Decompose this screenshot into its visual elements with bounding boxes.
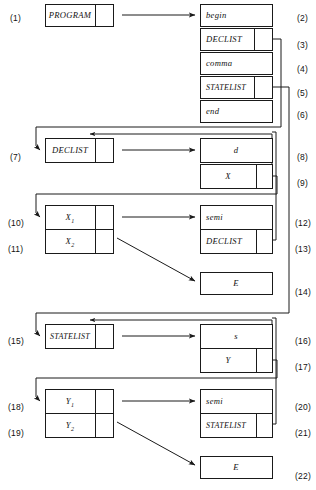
node-label: X bbox=[224, 171, 231, 181]
edge-x2-to-e14 bbox=[117, 238, 195, 281]
node-end[interactable]: end bbox=[201, 101, 273, 123]
diagram-canvas: PROGRAMbeginDECLISTcommaSTATELISTendDECL… bbox=[0, 0, 316, 490]
index-label-right-17: (17) bbox=[295, 362, 311, 372]
edge-y2-to-e22 bbox=[117, 422, 195, 465]
node-x1[interactable]: X1 bbox=[46, 206, 114, 230]
node-label: semi bbox=[206, 212, 223, 222]
node-box bbox=[46, 230, 114, 254]
node-box bbox=[201, 165, 273, 189]
node-label: DECLIST bbox=[51, 145, 89, 155]
index-label-right-13: (13) bbox=[295, 244, 311, 254]
node-y17[interactable]: Y bbox=[201, 349, 273, 373]
node-box bbox=[46, 390, 114, 414]
index-label-right-21: (21) bbox=[295, 428, 311, 438]
node-label: DECLIST bbox=[205, 236, 243, 246]
node-d8[interactable]: d bbox=[201, 139, 273, 163]
node-label-subscript: 1 bbox=[71, 218, 74, 224]
index-label-right-9: (9) bbox=[297, 178, 308, 188]
node-label: d bbox=[234, 145, 239, 155]
index-label-right-14: (14) bbox=[295, 287, 311, 297]
index-label-left-10: (10) bbox=[8, 218, 24, 228]
node-declist13[interactable]: DECLIST bbox=[201, 230, 273, 254]
index-label-right-22: (22) bbox=[295, 471, 311, 481]
node-x2[interactable]: X2 bbox=[46, 230, 114, 254]
node-e22[interactable]: E bbox=[201, 457, 273, 479]
node-begin[interactable]: begin bbox=[201, 5, 273, 27]
node-label: STATELIST bbox=[50, 332, 90, 341]
index-label-left-18: (18) bbox=[8, 402, 24, 412]
node-semi20[interactable]: semi bbox=[201, 390, 273, 414]
index-label-right-16: (16) bbox=[295, 336, 311, 346]
nodes-group: PROGRAMbeginDECLISTcommaSTATELISTendDECL… bbox=[46, 5, 273, 479]
node-label: semi bbox=[206, 396, 223, 406]
index-label-right-4: (4) bbox=[297, 64, 308, 74]
node-label: s bbox=[234, 331, 238, 341]
node-box bbox=[46, 206, 114, 230]
node-label: end bbox=[206, 106, 220, 116]
node-label-subscript: 2 bbox=[71, 242, 74, 248]
node-box bbox=[46, 414, 114, 438]
index-label-left-19: (19) bbox=[8, 428, 24, 438]
index-label-left-1: (1) bbox=[10, 13, 21, 23]
node-y1[interactable]: Y1 bbox=[46, 390, 114, 414]
node-label: STATELIST bbox=[206, 83, 246, 92]
node-label-subscript: 1 bbox=[71, 402, 74, 408]
index-label-left-15: (15) bbox=[8, 336, 24, 346]
node-label-subscript: 2 bbox=[71, 426, 74, 432]
node-semi12[interactable]: semi bbox=[201, 206, 273, 230]
node-statelist15[interactable]: STATELIST bbox=[46, 325, 114, 349]
index-label-left-11: (11) bbox=[8, 244, 23, 254]
node-statelist5[interactable]: STATELIST bbox=[201, 77, 273, 99]
node-label: E bbox=[232, 462, 239, 472]
node-e14[interactable]: E bbox=[201, 273, 273, 295]
node-statelist21[interactable]: STATELIST bbox=[201, 414, 273, 438]
index-label-right-12: (12) bbox=[295, 218, 311, 228]
index-label-right-8: (8) bbox=[297, 152, 308, 162]
node-label: STATELIST bbox=[206, 421, 246, 430]
node-label: comma bbox=[206, 58, 232, 68]
node-declist7[interactable]: DECLIST bbox=[46, 139, 114, 163]
node-s16[interactable]: s bbox=[201, 325, 273, 349]
node-label: PROGRAM bbox=[48, 10, 92, 20]
index-label-right-2: (2) bbox=[297, 13, 308, 23]
node-program[interactable]: PROGRAM bbox=[46, 5, 114, 27]
node-label: DECLIST bbox=[205, 34, 243, 44]
index-label-right-5: (5) bbox=[297, 88, 308, 98]
node-comma[interactable]: comma bbox=[201, 53, 273, 75]
index-label-right-3: (3) bbox=[297, 40, 308, 50]
index-label-right-6: (6) bbox=[297, 110, 308, 120]
diagram-svg: PROGRAMbeginDECLISTcommaSTATELISTendDECL… bbox=[0, 0, 316, 490]
node-y2[interactable]: Y2 bbox=[46, 414, 114, 438]
node-label: begin bbox=[206, 10, 227, 20]
node-x9[interactable]: X bbox=[201, 165, 273, 189]
node-label: E bbox=[232, 278, 239, 288]
node-declist3[interactable]: DECLIST bbox=[201, 29, 273, 51]
node-box bbox=[201, 349, 273, 373]
index-label-right-20: (20) bbox=[295, 402, 311, 412]
index-label-left-7: (7) bbox=[10, 152, 21, 162]
